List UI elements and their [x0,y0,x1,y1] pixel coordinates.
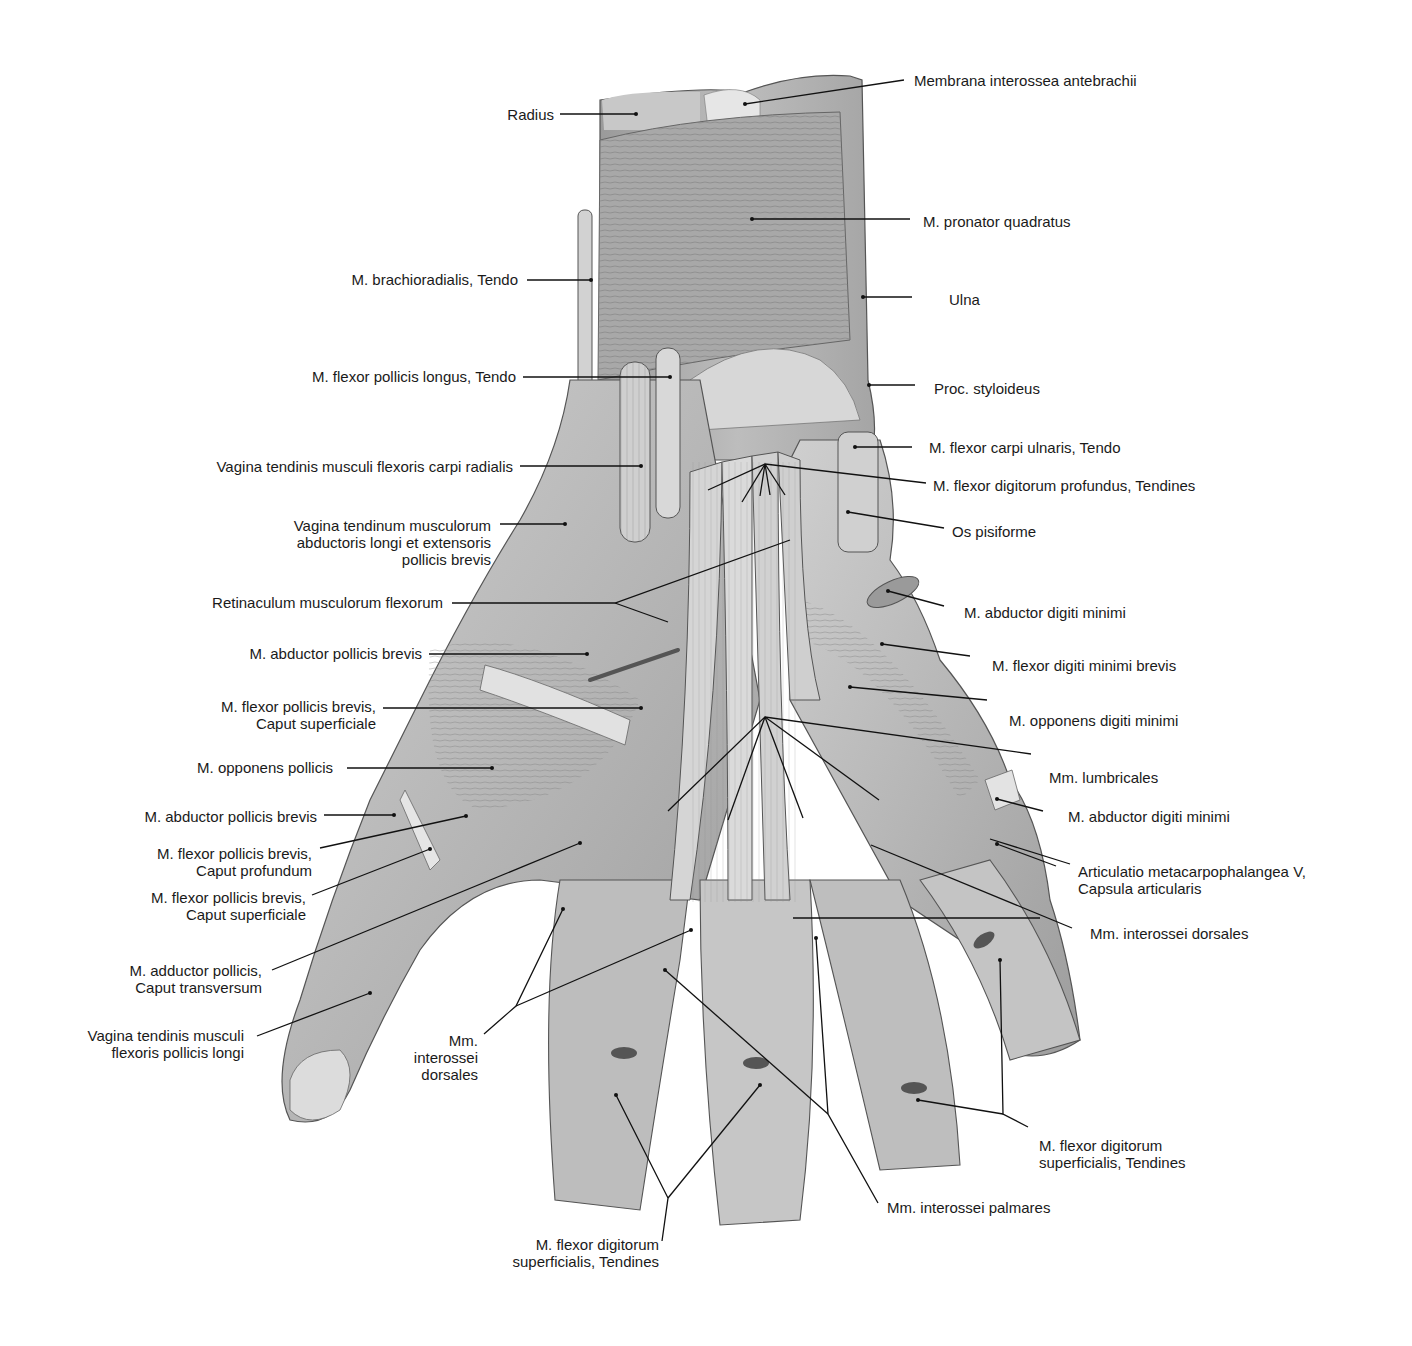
label-interossei-dorsales-right: Mm. interossei dorsales [1090,925,1248,942]
label-flexor-pollicis-longus-tendon: M. flexor pollicis longus, Tendo [312,368,516,385]
label-flexor-pollicis-brevis-superficiale-2: M. flexor pollicis brevis,Caput superfic… [151,889,306,923]
label-ulna: Ulna [949,291,980,308]
label-retinaculum: Retinaculum musculorum flexorum [212,594,443,611]
anatomy-figure: Radius M. brachioradialis, Tendo M. flex… [0,0,1412,1346]
label-abductor-digiti-minimi-1: M. abductor digiti minimi [964,604,1126,621]
label-abductor-digiti-minimi-2: M. abductor digiti minimi [1068,808,1230,825]
label-interossei-dorsales-left: Mm.interosseidorsales [414,1032,478,1083]
label-brachioradialis-tendon: M. brachioradialis, Tendo [352,271,518,288]
flexor-digitorum-profundus-tendons [670,452,820,902]
label-flexor-pollicis-brevis-superficiale-1: M. flexor pollicis brevis,Caput superfic… [221,698,376,732]
label-fds-tendines-bottom: M. flexor digitorumsuperficialis, Tendin… [513,1236,659,1270]
label-adductor-pollicis: M. adductor pollicis,Caput transversum [129,962,262,996]
label-opponens-pollicis: M. opponens pollicis [197,759,333,776]
label-fds-tendines-right: M. flexor digitorumsuperficialis, Tendin… [1039,1137,1185,1171]
fingers [549,860,1080,1225]
label-flexor-pollicis-brevis-profundum: M. flexor pollicis brevis,Caput profundu… [157,845,312,879]
label-vagina-flexor-pollicis-longi: Vagina tendinis musculiflexoris pollicis… [88,1027,244,1061]
label-pronator-quadratus: M. pronator quadratus [923,213,1071,230]
label-abductor-pollicis-brevis-1: M. abductor pollicis brevis [249,645,422,662]
label-articulatio-metacarpophalangea: Articulatio metacarpophalangea V,Capsula… [1078,863,1306,897]
label-mm-lumbricales: Mm. lumbricales [1049,769,1158,786]
label-membrana-interossea: Membrana interossea antebrachii [914,72,1137,89]
label-opponens-digiti-minimi: M. opponens digiti minimi [1009,712,1178,729]
brachioradialis-tendon [578,210,592,390]
label-flexor-digitorum-profundus: M. flexor digitorum profundus, Tendines [933,477,1195,494]
label-flexor-carpi-ulnaris-tendo: M. flexor carpi ulnaris, Tendo [929,439,1120,456]
label-vagina-fcr: Vagina tendinis musculi flexoris carpi r… [216,458,513,475]
label-proc-styloideus: Proc. styloideus [934,380,1040,397]
label-abductor-pollicis-brevis-2: M. abductor pollicis brevis [144,808,317,825]
label-os-pisiforme: Os pisiforme [952,523,1036,540]
label-interossei-palmares: Mm. interossei palmares [887,1199,1050,1216]
label-radius: Radius [507,106,554,123]
hand-illustration [0,0,1412,1346]
label-flexor-digiti-minimi-brevis: M. flexor digiti minimi brevis [992,657,1176,674]
label-vagina-abductoris: Vagina tendinum musculorumabductoris lon… [294,517,491,568]
